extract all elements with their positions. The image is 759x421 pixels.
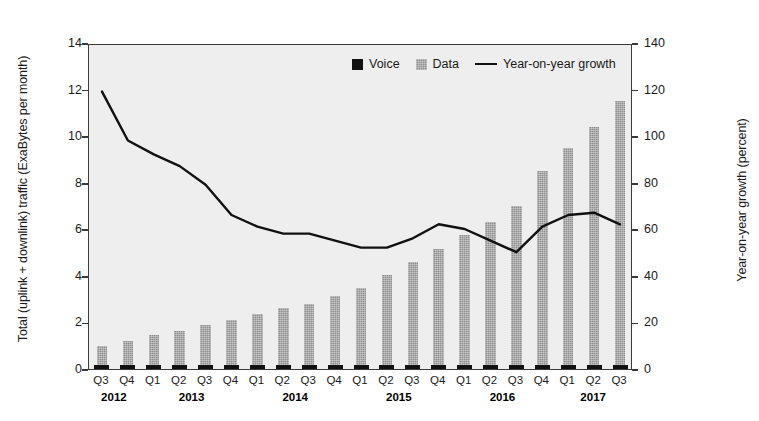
x-tick-quarter: Q4 <box>430 374 445 386</box>
growth-line-series <box>89 45 633 371</box>
y-tick-right: 20 <box>644 315 674 329</box>
x-tick-quarter: Q3 <box>301 374 316 386</box>
x-tick-quarter: Q4 <box>223 374 238 386</box>
x-tick-year: 2016 <box>490 391 516 403</box>
y-tick-right: 120 <box>644 83 674 97</box>
x-tick-year: 2015 <box>386 391 412 403</box>
x-tick-year: 2017 <box>580 391 606 403</box>
x-tick-quarter: Q1 <box>249 374 264 386</box>
data-swatch-icon <box>416 59 427 70</box>
x-tick-quarter: Q3 <box>611 374 626 386</box>
legend-item-voice: Voice <box>352 57 400 71</box>
x-tick-quarter: Q1 <box>145 374 160 386</box>
y-tick-right: 140 <box>644 36 674 50</box>
x-tick-quarter: Q3 <box>93 374 108 386</box>
chart-figure: Total (uplink + downlink) traffic (ExaBy… <box>0 0 759 421</box>
voice-swatch-icon <box>352 59 363 70</box>
y-tick-left: 12 <box>58 83 82 97</box>
x-tick-quarter: Q4 <box>326 374 341 386</box>
x-tick-year: 2014 <box>282 391 308 403</box>
x-tick-quarter: Q3 <box>197 374 212 386</box>
x-tick-quarter: Q3 <box>404 374 419 386</box>
legend-label-voice: Voice <box>369 57 400 71</box>
x-tick-quarter: Q2 <box>585 374 600 386</box>
y-axis-right-title: Year-on-year growth (percent) <box>735 30 749 370</box>
legend-label-growth: Year-on-year growth <box>503 57 616 71</box>
x-tick-quarter: Q1 <box>456 374 471 386</box>
legend-item-growth: Year-on-year growth <box>475 57 616 71</box>
legend-label-data: Data <box>433 57 459 71</box>
x-axis-quarter-labels: Q3Q4Q1Q2Q3Q4Q1Q2Q3Q4Q1Q2Q3Q4Q1Q2Q3Q4Q1Q2… <box>88 374 632 392</box>
y-tick-left: 2 <box>58 315 82 329</box>
y-tick-left: 0 <box>58 362 82 376</box>
legend-item-data: Data <box>416 57 459 71</box>
x-tick-quarter: Q1 <box>352 374 367 386</box>
chart-legend: Voice Data Year-on-year growth <box>352 57 616 71</box>
x-tick-quarter: Q2 <box>378 374 393 386</box>
x-tick-quarter: Q2 <box>171 374 186 386</box>
y-tick-right: 100 <box>644 129 674 143</box>
x-tick-year: 2012 <box>101 391 127 403</box>
x-tick-quarter: Q1 <box>560 374 575 386</box>
x-tick-quarter: Q4 <box>119 374 134 386</box>
y-tick-right: 80 <box>644 176 674 190</box>
plot-area <box>88 44 632 370</box>
y-tick-right: 40 <box>644 269 674 283</box>
x-tick-quarter: Q2 <box>482 374 497 386</box>
y-tick-right: 60 <box>644 222 674 236</box>
x-tick-quarter: Q2 <box>275 374 290 386</box>
y-tick-left: 14 <box>58 36 82 50</box>
y-tick-left: 6 <box>58 222 82 236</box>
x-tick-quarter: Q3 <box>508 374 523 386</box>
y-tick-left: 4 <box>58 269 82 283</box>
x-tick-year: 2013 <box>179 391 205 403</box>
line-swatch-icon <box>475 63 497 65</box>
y-tick-left: 8 <box>58 176 82 190</box>
x-tick-quarter: Q4 <box>534 374 549 386</box>
y-axis-left-title: Total (uplink + downlink) traffic (ExaBy… <box>16 24 30 374</box>
y-tick-right: 0 <box>644 362 674 376</box>
y-tick-left: 10 <box>58 129 82 143</box>
x-axis-year-labels: 201220132014201520162017 <box>88 391 632 409</box>
